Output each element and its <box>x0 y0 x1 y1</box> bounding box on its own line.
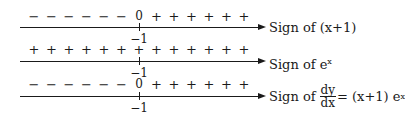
sign-symbol: + <box>221 78 233 91</box>
fraction-denominator: dx <box>320 97 336 109</box>
row-label: Sign of dy dx = (x+1) ex <box>269 84 405 109</box>
sign-symbol: − <box>63 10 75 23</box>
zero-marker: 0 <box>133 10 145 23</box>
sign-symbol: + <box>28 43 40 56</box>
zero-marker: 0 <box>133 78 145 91</box>
sign-symbol: + <box>168 10 180 23</box>
number-line <box>20 96 260 97</box>
sign-symbol: + <box>186 43 198 56</box>
sign-symbol: + <box>151 78 163 91</box>
sign-symbol: + <box>46 43 58 56</box>
row-label-superscript: x <box>401 90 405 104</box>
sign-symbol: − <box>46 10 58 23</box>
arrow-head-icon <box>258 93 266 99</box>
arrow-head-icon <box>258 58 266 64</box>
sign-symbol: − <box>98 78 110 91</box>
sign-symbol: + <box>151 10 163 23</box>
sign-symbol: + <box>168 43 180 56</box>
row-label: Sign of (x+1) <box>269 21 356 35</box>
sign-symbol: + <box>238 10 250 23</box>
sign-symbol: − <box>98 10 110 23</box>
tick-mark <box>139 92 140 100</box>
tick-mark <box>139 23 140 31</box>
sign-row-exp-x: + + + + + + + + + + + + + −1 Sign of ex <box>0 42 389 78</box>
sign-symbol: − <box>28 78 40 91</box>
arrow-head-icon <box>258 24 266 30</box>
sign-symbol: + <box>203 10 215 23</box>
row-label-text: Sign of e <box>269 57 327 72</box>
sign-symbol: + <box>221 43 233 56</box>
sign-symbol: + <box>186 78 198 91</box>
sign-symbol: − <box>81 78 93 91</box>
sign-symbol: + <box>186 10 198 23</box>
number-line <box>20 27 260 28</box>
row-label-expression: = (x+1) e <box>337 90 401 104</box>
number-line <box>20 61 260 62</box>
sign-symbol: − <box>63 78 75 91</box>
sign-symbol: + <box>98 43 110 56</box>
derivative-fraction: dy dx <box>320 84 336 109</box>
sign-row-x-plus-1: − − − − − − 0 + + + + + + −1 Sign of (x+… <box>0 8 389 44</box>
row-label-text: Sign of <box>269 90 316 104</box>
sign-symbol: + <box>203 78 215 91</box>
sign-symbol: + <box>221 10 233 23</box>
sign-symbol: + <box>238 43 250 56</box>
sign-symbol: − <box>46 78 58 91</box>
sign-symbol: − <box>116 78 128 91</box>
sign-symbol: − <box>81 10 93 23</box>
sign-symbol: + <box>203 43 215 56</box>
sign-symbol: + <box>238 78 250 91</box>
sign-symbol: + <box>63 43 75 56</box>
tick-label: −1 <box>130 102 148 114</box>
tick-mark <box>139 57 140 65</box>
sign-symbol: + <box>116 43 128 56</box>
sign-symbol: + <box>168 78 180 91</box>
sign-symbol: + <box>133 43 145 56</box>
sign-symbol: + <box>81 43 93 56</box>
row-label: Sign of ex <box>269 55 332 72</box>
sign-symbol: − <box>116 10 128 23</box>
row-label-superscript: x <box>327 57 332 66</box>
row-label-text: Sign of (x+1) <box>269 20 356 35</box>
sign-symbol: + <box>151 43 163 56</box>
sign-symbol: − <box>28 10 40 23</box>
sign-row-dy-dx: − − − − − − 0 + + + + + + −1 Sign of dy … <box>0 77 389 113</box>
